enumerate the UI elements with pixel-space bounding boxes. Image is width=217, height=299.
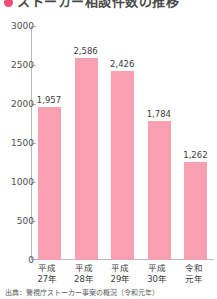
x-axis-label-line: 平成 <box>139 263 176 274</box>
x-axis-label-line: 平成 <box>102 263 139 274</box>
bar-value-label: 2,426 <box>102 59 142 69</box>
x-axis-label-line: 元年 <box>175 274 212 285</box>
x-axis-label: 平成28年 <box>66 263 103 284</box>
x-axis-label-line: 平成 <box>66 263 103 274</box>
bar-value-label: 1,262 <box>175 150 215 160</box>
bar-chart: 500100015002000250030000 1,9572,5862,426… <box>0 11 217 263</box>
bullet-icon <box>4 0 13 7</box>
x-axis-label-line: 30年 <box>139 274 176 285</box>
x-axis-label: 令和元年 <box>175 263 212 284</box>
y-tick-label: 2500 <box>0 60 34 70</box>
bar-value-label: 1,784 <box>139 109 179 119</box>
chart-title-strip: ストーカー相談件数の推移 <box>0 0 217 11</box>
y-tick-label: 1500 <box>0 138 34 148</box>
x-axis-label-line: 平成 <box>29 263 66 274</box>
bar-slot: 2,586 <box>68 26 105 260</box>
x-axis-labels: 平成27年平成28年平成29年平成30年令和元年 <box>31 263 214 287</box>
bar-series: 1,9572,5862,4261,7841,262 <box>31 26 214 260</box>
y-tick-label: 500 <box>0 216 34 226</box>
bar-slot: 1,262 <box>177 26 214 260</box>
x-axis-label: 平成27年 <box>29 263 66 284</box>
x-axis-label-line: 29年 <box>102 274 139 285</box>
chart-title: ストーカー相談件数の推移 <box>4 0 179 10</box>
y-tick-label: 3000 <box>0 21 34 31</box>
bar[interactable] <box>38 107 61 260</box>
bar[interactable] <box>75 58 98 260</box>
bar[interactable] <box>148 121 171 260</box>
bar-slot: 2,426 <box>104 26 141 260</box>
x-axis-label-line: 令和 <box>175 263 212 274</box>
bar-slot: 1,784 <box>141 26 178 260</box>
y-tick-label: 1000 <box>0 177 34 187</box>
bar-value-label: 2,586 <box>66 46 106 56</box>
chart-title-text: ストーカー相談件数の推移 <box>17 0 179 9</box>
bar[interactable] <box>184 162 207 260</box>
source-note: 出典：警視庁ストーカー事案の概況（令和元年） <box>5 287 159 297</box>
x-axis-label-line: 28年 <box>66 274 103 285</box>
x-axis-label-line: 27年 <box>29 274 66 285</box>
bar-value-label: 1,957 <box>29 95 69 105</box>
bar[interactable] <box>111 71 134 260</box>
x-axis-label: 平成30年 <box>139 263 176 284</box>
bar-slot: 1,957 <box>31 26 68 260</box>
x-axis-label: 平成29年 <box>102 263 139 284</box>
